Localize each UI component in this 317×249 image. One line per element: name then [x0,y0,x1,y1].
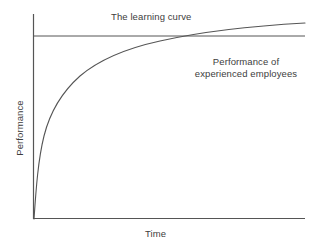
chart-canvas [0,0,317,249]
learning-curve-path [34,23,305,219]
learning-curve-figure: The learning curve Performance of experi… [0,0,317,249]
experienced-performance-annotation-line-1: Performance of [190,56,302,68]
y-axis-label: Performance [14,89,26,167]
experienced-performance-annotation: Performance of experienced employees [190,56,302,80]
experienced-performance-annotation-line-2: experienced employees [190,68,302,80]
x-axis-label: Time [145,228,166,240]
curve-title-label: The learning curve [111,11,191,23]
